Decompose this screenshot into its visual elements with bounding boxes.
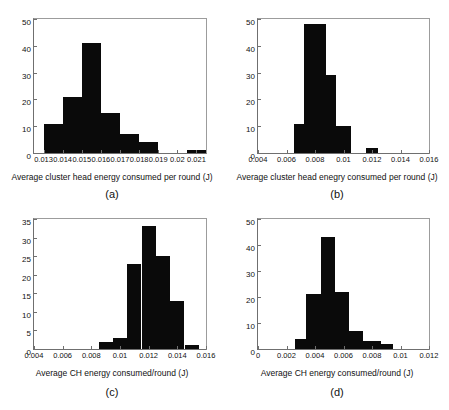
x-tick-mark <box>344 346 345 349</box>
x-tick-mark <box>401 150 402 153</box>
x-tick-mark <box>401 346 402 349</box>
x-tick-mark <box>63 346 64 349</box>
y-tick-label: 20 <box>22 275 34 283</box>
y-tick-label: 10 <box>22 312 34 320</box>
plot-area-c <box>34 219 206 349</box>
histogram-bar <box>306 294 320 349</box>
histogram-bar <box>44 124 63 153</box>
x-tick-label: 0.016 <box>91 153 110 164</box>
panel-b: 010203040500.0040.0060.0080.010.0120.014… <box>225 0 449 205</box>
y-tick-mark <box>258 297 261 298</box>
x-tick-label: 0.021 <box>187 153 206 164</box>
histogram-bar <box>127 264 141 349</box>
caption-b: (b) <box>225 188 449 200</box>
y-tick-mark <box>34 293 37 294</box>
histogram-bar <box>336 126 350 153</box>
x-tick-mark <box>206 346 207 349</box>
x-tick-label: 0.006 <box>53 349 72 360</box>
axes-a: 010203040500.0130.0140.0150.0160.0170.01… <box>33 18 207 154</box>
x-tick-mark <box>429 150 430 153</box>
y-tick-mark <box>34 19 37 20</box>
y-tick-mark <box>258 245 261 246</box>
x-tick-mark <box>287 346 288 349</box>
y-tick-mark <box>258 73 261 74</box>
y-tick-mark <box>34 46 37 47</box>
x-tick-label: 0.004 <box>249 153 268 164</box>
x-tick-label: 0.012 <box>363 153 382 164</box>
x-tick-label: 0.012 <box>420 349 439 360</box>
x-tick-mark <box>315 150 316 153</box>
x-tick-mark <box>372 346 373 349</box>
x-tick-label: 0.012 <box>139 349 158 360</box>
x-tick-label: 0.01 <box>336 153 351 164</box>
y-tick-mark <box>258 271 261 272</box>
y-tick-label: 10 <box>246 323 258 331</box>
histogram-bar <box>294 124 305 153</box>
y-tick-mark <box>258 46 261 47</box>
x-tick-mark <box>344 150 345 153</box>
y-tick-mark <box>34 312 37 313</box>
x-tick-label: 0.014 <box>53 153 72 164</box>
x-tick-mark <box>372 150 373 153</box>
x-tick-mark <box>120 346 121 349</box>
y-tick-mark <box>34 73 37 74</box>
y-tick-mark <box>258 99 261 100</box>
x-tick-label: 0.01 <box>393 349 408 360</box>
histogram-bar <box>120 134 139 153</box>
y-tick-mark <box>34 330 37 331</box>
histogram-bar <box>304 24 325 153</box>
y-tick-label: 20 <box>246 297 258 305</box>
y-tick-label: 50 <box>22 19 34 27</box>
x-tick-label: 0.02 <box>170 153 185 164</box>
histogram-bar <box>156 256 170 349</box>
y-tick-mark <box>258 219 261 220</box>
y-tick-mark <box>34 238 37 239</box>
x-tick-label: 0.016 <box>197 349 216 360</box>
xlabel-d: Average CH energy consumed/round (J) <box>225 368 449 378</box>
x-tick-label: 0.01 <box>113 349 128 360</box>
xlabel-c: Average CH energy consumed/round (J) <box>0 368 224 378</box>
y-tick-label: 10 <box>246 126 258 134</box>
x-tick-mark <box>177 150 178 153</box>
plot-area-d <box>258 219 429 349</box>
histogram-bar <box>63 97 82 153</box>
histogram-bar <box>99 342 113 349</box>
histogram-bar <box>349 331 363 349</box>
y-tick-label: 25 <box>22 256 34 264</box>
histogram-bar <box>142 226 156 349</box>
histogram-bar <box>82 43 101 153</box>
y-tick-mark <box>34 256 37 257</box>
x-tick-label: 0.014 <box>391 153 410 164</box>
histogram-bar <box>295 339 306 349</box>
y-tick-label: 20 <box>22 99 34 107</box>
histogram-bar <box>335 292 349 349</box>
axes-c: 051015202530350.0040.0060.0080.010.0120.… <box>33 218 207 350</box>
x-tick-mark <box>287 150 288 153</box>
y-tick-mark <box>258 126 261 127</box>
xlabel-a: Average cluster head energy consumed per… <box>0 172 224 182</box>
x-tick-label: 0.017 <box>111 153 130 164</box>
histogram-bar <box>381 344 394 349</box>
x-tick-label: 0.015 <box>72 153 91 164</box>
x-tick-label: 0.018 <box>130 153 149 164</box>
x-tick-mark <box>44 150 45 153</box>
x-tick-label: 0.019 <box>149 153 168 164</box>
x-tick-label: 0.004 <box>306 349 325 360</box>
y-tick-mark <box>258 323 261 324</box>
y-tick-label: 35 <box>22 219 34 227</box>
x-tick-label: 0.008 <box>82 349 101 360</box>
y-tick-mark <box>258 19 261 20</box>
y-tick-label: 40 <box>246 245 258 253</box>
plot-area-b <box>258 19 429 153</box>
panel-d: 0102030405000.0020.0040.0060.0080.010.01… <box>225 205 449 410</box>
y-tick-mark <box>34 126 37 127</box>
x-tick-mark <box>101 150 102 153</box>
x-tick-label: 0 <box>256 349 260 360</box>
x-tick-label: 0.006 <box>277 153 296 164</box>
x-tick-mark <box>82 150 83 153</box>
y-tick-label: 50 <box>246 19 258 27</box>
y-tick-label: 15 <box>22 293 34 301</box>
x-tick-label: 0.014 <box>168 349 187 360</box>
caption-d: (d) <box>225 386 449 398</box>
histogram-bar <box>139 142 158 153</box>
